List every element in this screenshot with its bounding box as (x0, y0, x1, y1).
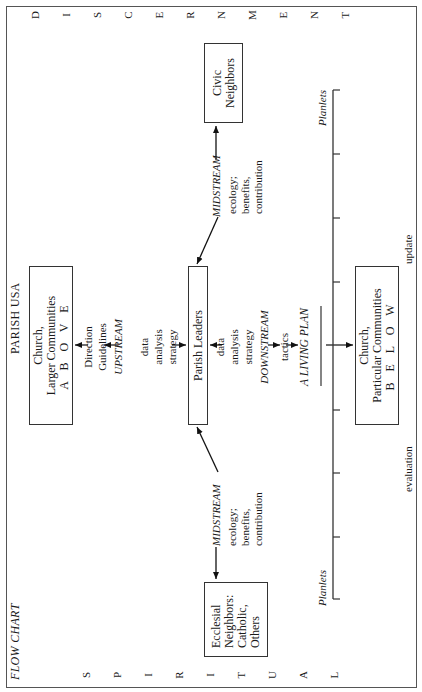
flow-chart-page: FLOW CHART PARISH USA S P I R I T U A L … (0, 0, 422, 692)
arrow-icon (197, 217, 218, 264)
arrow-icon (197, 427, 218, 472)
connectors (0, 0, 422, 692)
